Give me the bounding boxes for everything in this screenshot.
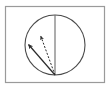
geometry-diagram [0,0,111,90]
figure-container [0,0,111,90]
